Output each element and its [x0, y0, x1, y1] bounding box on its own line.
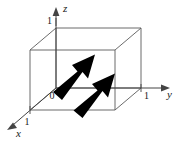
tick-label-y: 1: [144, 90, 149, 101]
coordinate-cube-diagram: z y x 1 1 1 0: [0, 0, 180, 147]
vector-2: [74, 74, 116, 119]
vector-group: [53, 55, 115, 119]
vector-1: [53, 55, 95, 101]
cube-edge-depth-top-right: [115, 28, 141, 50]
tick-label-z: 1: [47, 15, 52, 26]
axis-y: [56, 85, 170, 92]
axis-label-y: y: [166, 88, 172, 100]
origin-label: 0: [50, 90, 55, 101]
figure-container: z y x 1 1 1 0: [0, 0, 180, 147]
cube-edge-depth-bottom-right: [115, 88, 141, 110]
axis-label-z: z: [62, 2, 68, 14]
axis-label-x: x: [15, 127, 21, 139]
tick-label-x: 1: [25, 116, 30, 127]
label-group: z y x 1 1 1 0: [15, 2, 172, 139]
cube-edge-depth-top-left: [30, 28, 56, 50]
axis-z-arrowhead: [53, 7, 60, 16]
